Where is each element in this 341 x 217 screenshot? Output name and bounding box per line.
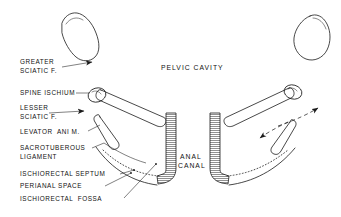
- label-ischiorectal-fossa: ISCHIORECTAL FOSSA: [20, 195, 102, 202]
- label-greater-sciatic-foramen-line2: SCIATIC F.: [20, 67, 57, 74]
- label-levator-ani-muscle: LEVATOR ANI M.: [20, 128, 80, 135]
- label-sacrotuberous-ligament-line2: LIGAMENT: [20, 153, 57, 160]
- figure-canvas: PELVIC CAVITY ANAL CANAL GREATER SCIATIC…: [0, 0, 341, 217]
- label-sacrotuberous-ligament-line1: SACROTUBEROUS: [20, 144, 85, 151]
- label-pelvic-cavity: PELVIC CAVITY: [161, 64, 224, 71]
- label-anal-canal-line1: ANAL: [180, 153, 202, 160]
- label-greater-sciatic-foramen-line1: GREATER: [20, 58, 54, 65]
- label-ischiorectal-septum: ISCHIORECTAL SEPTUM: [20, 170, 105, 177]
- label-anal-canal-line2: CANAL: [178, 162, 206, 169]
- label-spine-ischium: SPINE ISCHIUM: [20, 89, 75, 96]
- label-lesser-sciatic-foramen-line2: SCIATIC F.: [20, 113, 57, 120]
- label-perianal-space: PERIANAL SPACE: [20, 182, 82, 189]
- label-lesser-sciatic-foramen-line1: LESSER: [20, 104, 49, 111]
- anatomical-figure: PELVIC CAVITY ANAL CANAL GREATER SCIATIC…: [0, 0, 341, 217]
